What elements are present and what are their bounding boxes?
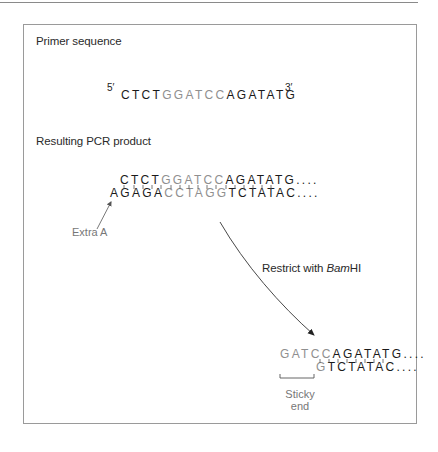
pcr-bottom-gene: TCTATAC.... [228, 186, 319, 200]
digested-top-strand: GATCCAGATATG.... [280, 347, 426, 361]
pcr-top-gene: AGATATG.... [225, 173, 318, 187]
digested-bottom-site: G [316, 360, 328, 374]
restriction-label: Restrict with BamHI [262, 262, 361, 274]
sticky-end-label-line2: end [282, 400, 318, 412]
pcr-product-heading: Resulting PCR product [36, 135, 151, 147]
enzyme-name-suffix: HI [350, 262, 361, 274]
five-prime-label: 5′ [107, 82, 114, 93]
primer-bamhi-site: GGATCC [162, 88, 226, 102]
digested-bottom-strand: GTCTATAC.... [316, 360, 419, 374]
pcr-bottom-bamhi-site: CCTAGG [164, 186, 228, 200]
three-prime-label: 3′ [285, 82, 292, 93]
digested-bottom-gene: TCTATAC.... [328, 360, 419, 374]
pcr-bottom-strand: AGAGACCTAGGTCTATAC.... [110, 186, 320, 200]
sticky-end-label-line1: Sticky [282, 388, 318, 400]
enzyme-name-italic: Bam [326, 262, 349, 274]
pcr-top-strand: CTCTGGATCCAGATATG.... [120, 173, 319, 187]
pcr-top-bamhi-site: GGATCC [161, 173, 225, 187]
digested-top-gene: AGATATG.... [333, 347, 426, 361]
pcr-top-flank: CTCT [120, 173, 161, 187]
top-rule-divider [0, 2, 418, 3]
pcr-bottom-flank: AGAGA [110, 186, 164, 200]
primer-flank-5: CTCT [121, 88, 162, 102]
restriction-label-prefix: Restrict with [262, 262, 326, 274]
sticky-end-label: Sticky end [282, 388, 318, 412]
primer-sequence-heading: Primer sequence [36, 35, 121, 47]
extra-a-label: Extra A [72, 226, 107, 238]
primer-sequence: CTCTGGATCCAGATATG [121, 88, 297, 102]
sticky-overhang: GATCC [280, 347, 333, 361]
